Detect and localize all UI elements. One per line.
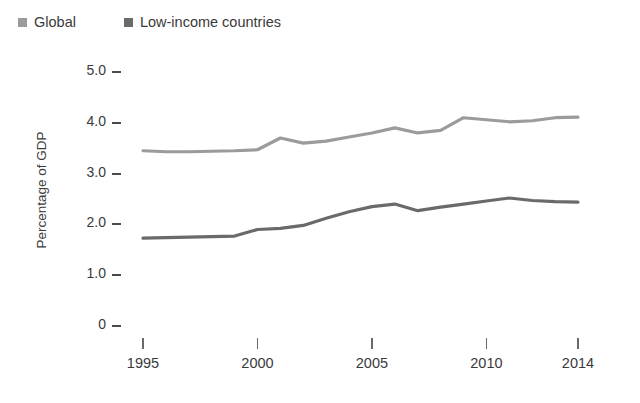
y-axis-tick-label: 0 xyxy=(66,316,106,332)
y-axis-tick-label: 3.0 xyxy=(66,164,106,180)
x-axis-tick-mark xyxy=(577,338,578,349)
x-axis-tick-label: 2000 xyxy=(227,355,287,371)
y-axis-tick-mark xyxy=(112,71,121,73)
x-axis-tick-label: 2010 xyxy=(456,355,516,371)
y-axis-tick-mark xyxy=(112,274,121,276)
y-axis-tick-mark xyxy=(112,122,121,124)
x-axis-tick-mark xyxy=(371,338,372,349)
y-axis-tick-mark xyxy=(112,173,121,175)
series-line-global xyxy=(143,117,578,152)
y-axis-tick-mark xyxy=(112,325,121,327)
x-axis-tick-mark xyxy=(486,338,487,349)
y-axis-tick-label: 1.0 xyxy=(66,265,106,281)
y-axis-tick-label: 4.0 xyxy=(66,113,106,129)
series-lines xyxy=(0,0,640,403)
y-axis-tick-label: 2.0 xyxy=(66,214,106,230)
plot-area: 01.02.03.04.05.019952000200520102014 xyxy=(0,0,640,403)
x-axis-tick-mark xyxy=(257,338,258,349)
series-line-low-income-countries xyxy=(143,198,578,238)
x-axis-tick-label: 2014 xyxy=(548,355,608,371)
y-axis-tick-mark xyxy=(112,223,121,225)
x-axis-tick-label: 2005 xyxy=(342,355,402,371)
chart-figure: Global Low-income countries Percentage o… xyxy=(0,0,640,403)
x-axis-tick-mark xyxy=(142,338,143,349)
y-axis-tick-label: 5.0 xyxy=(66,62,106,78)
x-axis-tick-label: 1995 xyxy=(113,355,173,371)
